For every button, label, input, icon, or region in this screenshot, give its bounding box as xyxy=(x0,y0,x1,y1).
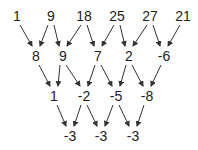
arrow-line xyxy=(66,65,80,86)
row-2-value-2: -5 xyxy=(110,89,122,103)
arrow-line xyxy=(153,25,160,46)
arrow-line xyxy=(119,105,129,126)
arrow-line xyxy=(133,25,147,46)
arrow-line xyxy=(137,105,144,126)
row-2-value-3: -8 xyxy=(141,89,153,103)
row-1-value-1: 9 xyxy=(59,49,67,63)
arrow-line xyxy=(54,25,59,46)
arrow-line xyxy=(39,65,50,86)
arrow-line xyxy=(102,25,114,46)
arrow-line xyxy=(101,65,112,86)
difference-triangle-diagram: 1 9 18 25 27 21 8 9 7 2 -6 1 -2 -5 -8 -3… xyxy=(0,0,198,150)
arrow-line xyxy=(132,65,143,86)
row-1-value-2: 7 xyxy=(94,49,102,63)
arrow-line xyxy=(74,105,81,126)
arrow-line xyxy=(88,65,95,86)
arrow-line xyxy=(87,105,97,126)
row-0-value-2: 18 xyxy=(76,9,92,23)
arrow-line xyxy=(105,105,113,126)
row-0-value-4: 27 xyxy=(142,9,158,23)
row-0-value-1: 9 xyxy=(47,9,55,23)
arrow-line xyxy=(58,65,60,86)
arrow-line xyxy=(87,25,94,46)
row-3-value-0: -3 xyxy=(64,129,76,143)
row-0-value-3: 25 xyxy=(109,9,125,23)
row-2-value-0: 1 xyxy=(50,89,58,103)
row-1-value-4: -6 xyxy=(158,49,170,63)
row-0-value-5: 21 xyxy=(175,9,191,23)
arrow-line xyxy=(120,65,126,86)
row-1-value-3: 2 xyxy=(125,49,133,63)
row-0-value-0: 1 xyxy=(13,9,21,23)
arrow-line xyxy=(120,25,125,46)
row-1-value-0: 8 xyxy=(32,49,40,63)
arrow-line xyxy=(57,105,66,126)
arrow-line xyxy=(151,65,161,86)
arrow-line xyxy=(40,25,48,46)
row-3-value-2: -3 xyxy=(127,129,139,143)
arrow-line xyxy=(67,25,81,46)
row-2-value-1: -2 xyxy=(78,89,90,103)
arrow-line xyxy=(20,25,32,46)
arrow-line xyxy=(168,25,180,46)
row-3-value-1: -3 xyxy=(95,129,107,143)
